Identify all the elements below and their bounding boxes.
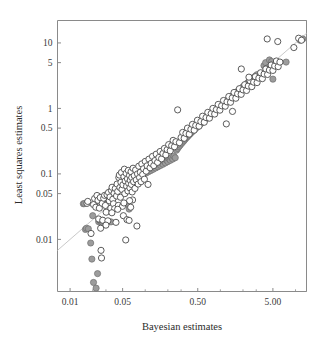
data-point-filled xyxy=(89,256,95,262)
data-point-open xyxy=(121,200,127,206)
data-point-open xyxy=(246,74,252,80)
x-tick-label: 0.05 xyxy=(114,297,131,307)
x-tick-label: 0.50 xyxy=(189,297,206,307)
data-point-open xyxy=(291,44,297,50)
data-point-open xyxy=(98,255,104,261)
data-point-open xyxy=(275,38,281,44)
x-tick-label: 5.00 xyxy=(265,297,282,307)
data-point-open xyxy=(175,107,181,113)
data-point-filled xyxy=(172,155,178,161)
data-point-open xyxy=(98,247,104,253)
data-point-open xyxy=(127,198,133,204)
data-point-filled xyxy=(88,240,94,246)
chart-figure: 0.010.050.505.00 0.010.050.10.51510 Baye… xyxy=(0,0,324,339)
data-point-open xyxy=(145,181,151,187)
data-point-filled xyxy=(90,279,96,285)
y-tick-label: 0.5 xyxy=(41,123,53,133)
data-point-open xyxy=(109,210,115,216)
data-point-filled xyxy=(283,59,289,65)
data-point-open xyxy=(298,37,304,43)
y-tick-label: 0.05 xyxy=(36,189,53,199)
data-point-open xyxy=(264,36,270,42)
y-tick-label: 0.01 xyxy=(36,235,53,245)
y-tick-label: 5 xyxy=(48,58,53,68)
data-point-open xyxy=(223,121,229,127)
x-axis-title: Bayesian estimates xyxy=(142,321,222,332)
data-point-open xyxy=(115,206,121,212)
data-point-filled xyxy=(93,285,99,291)
data-point-open xyxy=(128,204,134,210)
data-point-open xyxy=(238,66,244,72)
data-point-open xyxy=(123,237,129,243)
y-axis-title: Least squares estimates xyxy=(13,106,24,205)
scatter-plot-svg: 0.010.050.505.00 0.010.050.10.51510 Baye… xyxy=(0,0,324,339)
y-tick-label: 0.1 xyxy=(41,169,53,179)
data-point-open xyxy=(134,223,140,229)
data-point-open xyxy=(98,225,104,231)
y-tick-label: 1 xyxy=(48,104,53,114)
data-point-filled xyxy=(94,271,100,277)
x-tick-label: 0.01 xyxy=(62,297,79,307)
data-point-open xyxy=(113,219,119,225)
data-point-open xyxy=(85,198,91,204)
y-tick-label: 10 xyxy=(43,38,53,48)
data-point-open xyxy=(277,59,283,65)
data-point-open xyxy=(126,217,132,223)
data-point-filled xyxy=(270,76,276,82)
data-point-open xyxy=(229,108,235,114)
data-point-filled xyxy=(90,213,96,219)
data-point-open xyxy=(88,230,94,236)
